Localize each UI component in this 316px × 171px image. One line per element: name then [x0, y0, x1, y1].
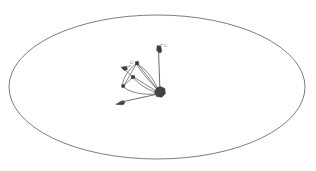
edge-origin-to-down-left-arrow	[119, 94, 158, 103]
vector-sketch-group: C C	[116, 43, 167, 105]
label-c-top: C	[164, 43, 167, 48]
origin-blob	[155, 87, 166, 98]
origin-blob-group	[155, 87, 166, 98]
edge-node-center-to-node-lower-left	[125, 78, 133, 85]
figure-canvas: C C	[0, 0, 316, 171]
arrow-down-left-icon	[116, 100, 125, 104]
arrow-markers-group	[116, 44, 163, 105]
edge-origin-to-up-arrow	[159, 50, 161, 92]
node-lower-left	[121, 84, 124, 87]
diagram-svg: C C	[0, 0, 316, 171]
arrow-up-right-icon	[157, 44, 163, 53]
node-center	[131, 75, 135, 79]
node-upper	[135, 61, 139, 65]
label-c-left: C	[130, 60, 133, 65]
